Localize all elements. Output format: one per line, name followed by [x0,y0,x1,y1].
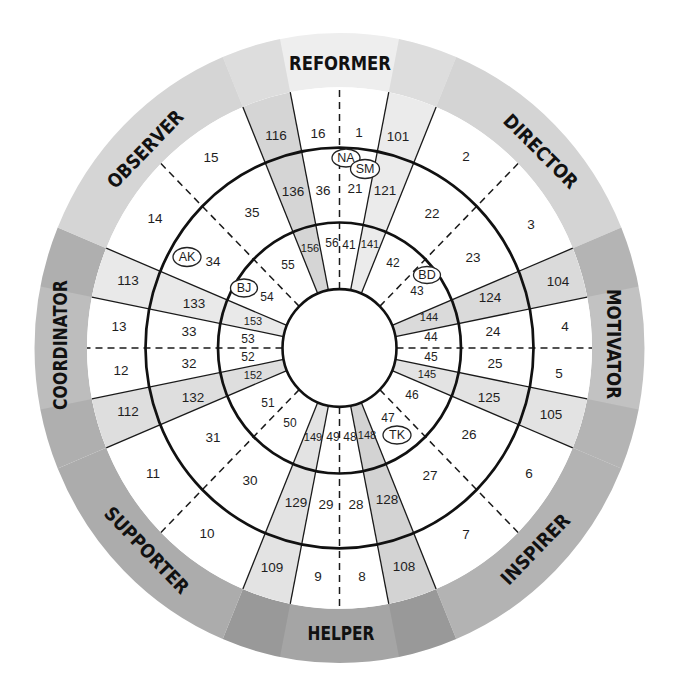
segment-number: 116 [265,128,287,143]
marker-initials: AK [179,250,196,264]
segment-number: 11 [146,466,160,481]
wheel-geometry [35,33,645,663]
segment-number: 109 [261,560,284,575]
segment-number: 148 [358,429,376,441]
marker-bd: BD [414,267,441,284]
segment-number: 25 [487,356,502,371]
segment-number: 30 [242,473,257,488]
segment-number: 49 [326,430,340,444]
segment-number: 124 [479,290,502,305]
segment-number: 29 [318,497,333,512]
segment-number: 144 [420,311,438,323]
segment-number: 1 [355,125,363,140]
segment-number: 54 [260,290,274,304]
segment-number: 51 [261,396,275,410]
marker-sm: SM [351,160,380,179]
segment-number: 12 [113,363,128,378]
segment-number: 125 [478,390,501,405]
segment-number: 48 [343,430,357,444]
role-label-helper: HELPER [308,622,375,644]
segment-number: 15 [203,150,218,165]
segment-number: 104 [547,274,570,289]
segment-number: 27 [422,468,437,483]
segment-number: 28 [348,497,363,512]
segment-number: 23 [465,250,480,265]
segment-number: 149 [304,431,322,443]
segment-number: 47 [381,411,395,425]
segment-number: 42 [386,256,400,270]
segment-number: 44 [424,330,438,344]
marker-tk: TK [383,426,411,444]
segment-number: 34 [205,254,221,269]
segment-number: 45 [424,350,438,364]
segment-number: 7 [462,527,470,542]
segment-number: 128 [376,492,399,507]
marker-initials: NA [337,151,355,165]
marker-initials: TK [389,428,406,442]
segment-number: 145 [418,368,436,380]
segment-number: 14 [147,211,163,226]
segment-number: 108 [393,559,416,574]
segment-number: 132 [182,390,205,405]
segment-number: 101 [387,129,410,144]
segment-number: 9 [314,569,322,584]
segment-number: 133 [183,296,206,311]
segment-number: 13 [111,319,126,334]
segment-number: 8 [358,569,366,584]
segment-number: 22 [424,206,439,221]
segment-number: 153 [244,315,262,327]
segment-number: 32 [181,356,196,371]
segment-number: 129 [285,495,308,510]
marker-bj: BJ [231,279,258,297]
wheel-svg: REFORMER DIRECTOR MOTIVATOR INSPIRER HEL… [0,0,673,692]
segment-number: 43 [410,284,424,298]
segment-number: 16 [310,126,325,141]
segment-number: 6 [525,466,533,481]
marker-ak: AK [173,248,201,267]
segment-number: 36 [315,183,330,198]
marker-initials: SM [356,162,375,176]
role-label-motivator: MOTIVATOR [603,289,625,399]
segment-number: 31 [205,430,220,445]
role-label-reformer: REFORMER [289,52,391,74]
segment-number: 50 [283,416,297,430]
segment-number: 136 [282,184,305,199]
segment-number: 21 [347,181,362,196]
segment-number: 55 [281,258,295,272]
segment-number: 4 [561,319,569,334]
role-wheel-diagram: REFORMER DIRECTOR MOTIVATOR INSPIRER HEL… [0,0,673,692]
segment-number: 10 [199,526,214,541]
segment-number: 121 [374,183,397,198]
segment-number: 46 [405,388,419,402]
segment-number: 113 [117,273,139,288]
segment-number: 33 [181,324,196,339]
segment-number: 152 [244,369,262,381]
role-label-coordinator: COORDINATOR [49,280,71,410]
segment-number: 141 [361,238,379,250]
segment-number: 53 [241,332,255,346]
segment-number: 3 [527,217,535,232]
segment-number: 105 [540,407,563,422]
segment-number: 112 [117,404,139,419]
segment-number: 2 [462,149,470,164]
segment-number: 41 [342,238,356,252]
center-circle [283,289,397,407]
segment-number: 156 [301,242,319,254]
segment-number: 24 [485,324,501,339]
segment-number: 26 [461,427,476,442]
marker-initials: BJ [237,281,252,295]
segment-number: 52 [241,350,255,364]
marker-initials: BD [418,268,435,282]
segment-number: 56 [325,236,339,250]
segment-number: 35 [244,205,259,220]
segment-number: 5 [555,366,563,381]
